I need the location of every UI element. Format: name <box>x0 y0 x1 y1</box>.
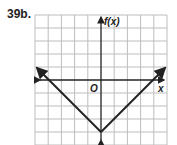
origin-label: O <box>90 83 98 94</box>
x-axis-label: x <box>157 83 164 94</box>
y-axis-label: f(x) <box>104 16 120 27</box>
graph-svg: f(x) x O <box>0 0 177 145</box>
axes <box>40 17 164 140</box>
